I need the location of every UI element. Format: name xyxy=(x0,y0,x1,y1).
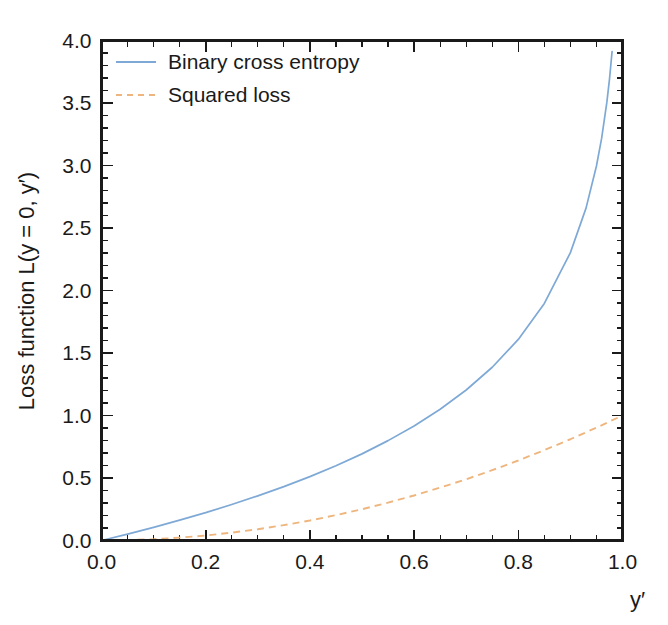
x-tick-label: 1.0 xyxy=(608,550,637,573)
legend-label-squared-loss: Squared loss xyxy=(168,83,291,106)
y-tick-label: 3.0 xyxy=(62,154,91,177)
y-tick-label: 4.0 xyxy=(62,29,91,52)
x-tick-label: 0.2 xyxy=(191,550,220,573)
figure-canvas: 0.00.20.40.60.81.0 0.00.51.01.52.02.53.0… xyxy=(0,0,668,625)
plot-background xyxy=(0,0,668,625)
loss-function-plot: 0.00.20.40.60.81.0 0.00.51.01.52.02.53.0… xyxy=(0,0,668,625)
legend-label-binary-cross-entropy: Binary cross entropy xyxy=(168,50,360,73)
y-tick-label: 2.0 xyxy=(62,279,91,302)
x-tick-label: 0.8 xyxy=(504,550,533,573)
x-tick-label: 0.4 xyxy=(295,550,325,573)
x-tick-label: 0.6 xyxy=(399,550,428,573)
y-tick-label: 2.5 xyxy=(62,216,91,239)
y-tick-label: 0.0 xyxy=(62,529,91,552)
y-tick-label: 0.5 xyxy=(62,466,91,489)
x-tick-label: 0.0 xyxy=(87,550,116,573)
y-tick-label: 1.0 xyxy=(62,404,91,427)
y-axis-title: Loss function L(y = 0, y′) xyxy=(14,172,39,410)
x-axis-title: y′ xyxy=(630,587,645,612)
y-tick-label: 3.5 xyxy=(62,91,91,114)
y-axis-tick-labels: 0.00.51.01.52.02.53.03.54.0 xyxy=(62,29,91,552)
y-tick-label: 1.5 xyxy=(62,341,91,364)
